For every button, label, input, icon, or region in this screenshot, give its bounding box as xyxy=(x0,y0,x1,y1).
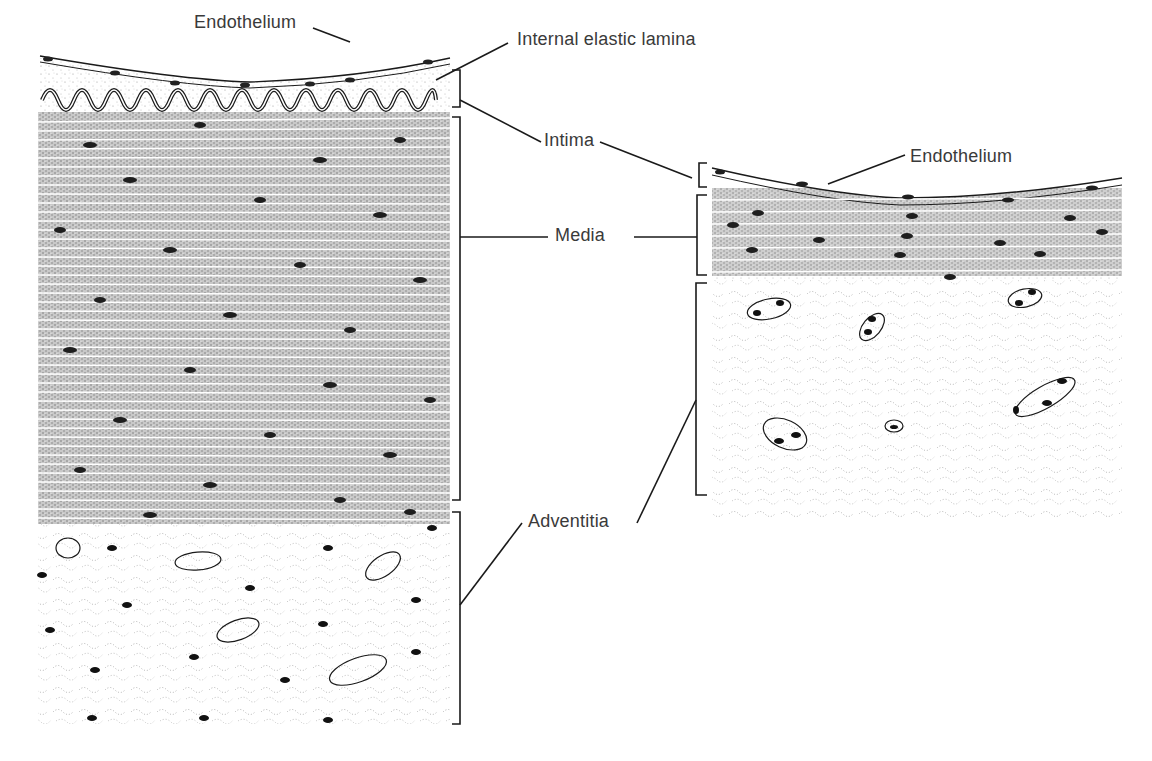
label-adventitia: Adventitia xyxy=(528,511,609,532)
label-endothelium-left: Endothelium xyxy=(194,12,296,33)
label-internal-elastic-lamina: Internal elastic lamina xyxy=(517,29,696,50)
label-media: Media xyxy=(555,225,605,246)
left-vessel xyxy=(37,56,450,724)
label-endothelium-right: Endothelium xyxy=(910,146,1012,167)
label-intima: Intima xyxy=(544,130,594,151)
vessel-wall-illustration xyxy=(0,0,1152,761)
right-vessel xyxy=(712,168,1122,518)
diagram-canvas: Endothelium Internal elastic lamina Inti… xyxy=(0,0,1152,761)
